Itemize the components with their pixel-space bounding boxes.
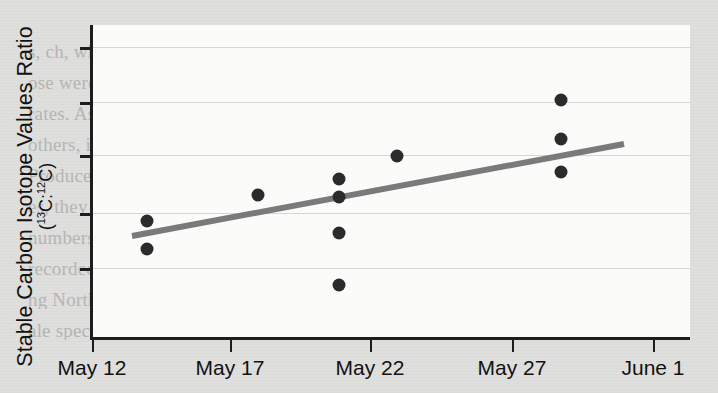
data-point	[141, 215, 154, 228]
x-axis-tick	[370, 340, 372, 352]
x-axis-tick-label: May 22	[336, 356, 405, 380]
y-axis-tick	[80, 102, 92, 105]
y-axis-tick	[80, 47, 92, 50]
scanned-page: s, ch, when wild is clearly also have a …	[0, 0, 718, 393]
data-point	[333, 227, 346, 240]
isotope-13-superscript: 13	[35, 212, 47, 224]
gridline	[92, 102, 690, 103]
gridline	[92, 47, 690, 48]
x-axis-tick	[230, 340, 232, 352]
gridline	[92, 268, 690, 269]
data-point	[252, 189, 265, 202]
x-axis-tick-label: May 17	[196, 356, 265, 380]
x-axis-tick	[512, 340, 514, 352]
gridline	[92, 213, 690, 214]
y-axis-tick	[80, 155, 92, 158]
data-point	[333, 173, 346, 186]
isotope-c-first: C:	[36, 194, 56, 212]
data-point	[333, 279, 346, 292]
x-axis-tick	[92, 340, 94, 352]
x-axis-tick-label: May 27	[478, 356, 547, 380]
y-axis-line	[90, 25, 93, 340]
y-axis-title: Stable Carbon Isotope Values Ratio (13C:…	[0, 0, 70, 393]
isotope-c-second: C)	[36, 163, 56, 182]
data-point	[333, 191, 346, 204]
plot-area	[92, 25, 690, 338]
data-point	[391, 150, 404, 163]
x-axis-tick	[653, 340, 655, 352]
y-axis-title-main: Stable Carbon Isotope Values Ratio	[14, 26, 36, 366]
data-point	[555, 133, 568, 146]
y-axis-tick	[80, 268, 92, 271]
chart-figure: May 12May 17May 22May 27June 1 Stable Ca…	[0, 0, 718, 393]
y-axis-title-sub-open: (	[36, 224, 56, 230]
data-point	[555, 166, 568, 179]
x-axis-tick-label: June 1	[621, 356, 684, 380]
x-axis-line	[90, 337, 690, 340]
isotope-12-superscript: 12	[35, 182, 47, 194]
data-point	[141, 243, 154, 256]
y-axis-title-subscript: (13C:12C)	[37, 163, 56, 231]
y-axis-tick	[80, 213, 92, 216]
data-point	[555, 94, 568, 107]
